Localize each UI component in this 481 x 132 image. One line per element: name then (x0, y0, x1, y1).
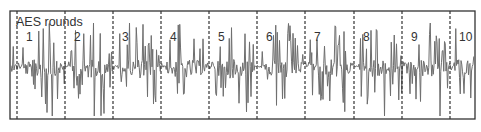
power-trace-chart: AES rounds 12345678910 (0, 0, 481, 132)
round-label-10: 10 (459, 30, 473, 44)
round-label-4: 4 (170, 30, 177, 44)
round-label-3: 3 (122, 30, 129, 44)
round-label-1: 1 (26, 30, 33, 44)
round-label-8: 8 (363, 30, 370, 44)
round-label-7: 7 (314, 30, 321, 44)
round-label-5: 5 (218, 30, 225, 44)
aes-rounds-annotation: AES rounds (16, 15, 83, 29)
round-label-2: 2 (74, 30, 81, 44)
round-label-6: 6 (266, 30, 273, 44)
round-label-9: 9 (411, 30, 418, 44)
